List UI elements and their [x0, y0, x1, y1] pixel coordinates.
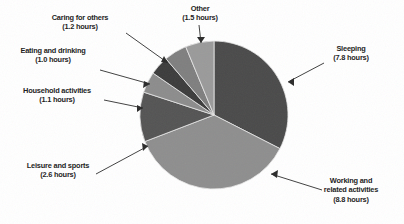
pie-label-household: Household activities (1.1 hours) [8, 86, 106, 105]
leader-line-caring [126, 33, 168, 63]
pie-slice-group [140, 41, 288, 189]
leader-arrow-working [271, 170, 278, 178]
leader-line-eating [100, 70, 150, 84]
pie-label-eating: Eating and drinking (1.0 hours) [4, 46, 102, 65]
pie-label-other: Other (1.5 hours) [160, 4, 240, 23]
pie-label-leisure: Leisure and sports (2.6 hours) [12, 161, 104, 180]
leader-arrow-sleeping [288, 78, 294, 86]
pie-label-sleeping: Sleeping (7.8 hours) [304, 44, 398, 63]
pie-label-working: Working and related activities (8.8 hour… [302, 176, 400, 204]
pie-chart-figure: Sleeping (7.8 hours) Working and related… [0, 0, 404, 224]
pie-label-caring: Caring for others (1.2 hours) [34, 13, 126, 32]
